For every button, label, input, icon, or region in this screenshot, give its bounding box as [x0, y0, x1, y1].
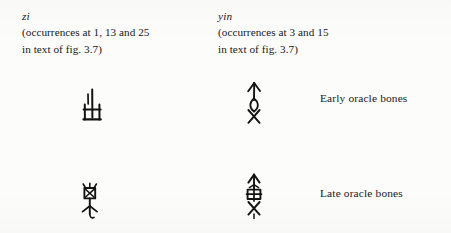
column-gloss-line-1-zi: (occurrences at 1, 13 and 25: [22, 24, 150, 40]
glyph-yin-late: [226, 172, 282, 222]
glyph-zi-early: [64, 84, 120, 134]
glyph-zi-late: [62, 176, 118, 226]
row-label-early-oracle-bones: Early oracle bones: [320, 91, 407, 105]
column-header-yin: yin (occurrences at 3 and 15 in text of …: [218, 8, 329, 57]
column-gloss-line-1-yin: (occurrences at 3 and 15: [218, 24, 329, 40]
column-romanization-zi: zi: [22, 8, 150, 24]
column-header-zi: zi (occurrences at 1, 13 and 25 in text …: [22, 8, 150, 57]
row-label-late-oracle-bones: Late oracle bones: [320, 186, 403, 200]
glyph-yin-early: [226, 80, 282, 130]
column-romanization-yin: yin: [218, 8, 329, 24]
figure-container: zi (occurrences at 1, 13 and 25 in text …: [0, 0, 451, 233]
column-gloss-line-2-zi: in text of fig. 3.7): [22, 41, 150, 57]
column-gloss-line-2-yin: in text of fig. 3.7): [218, 41, 329, 57]
